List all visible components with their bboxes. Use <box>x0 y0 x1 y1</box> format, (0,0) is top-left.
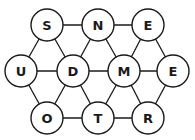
letter-node-e: E <box>132 9 164 41</box>
letter-node-e: E <box>157 55 189 87</box>
node-letter: N <box>93 18 104 33</box>
node-letter: S <box>42 18 51 33</box>
letter-node-t: T <box>82 102 114 134</box>
node-letter: R <box>143 111 153 126</box>
letter-node-o: O <box>31 102 63 134</box>
node-letter: U <box>16 64 27 79</box>
letter-grid-diagram: SNEUDMEOTR <box>0 0 195 140</box>
node-letter: T <box>94 111 103 126</box>
letter-node-n: N <box>82 9 114 41</box>
letter-node-u: U <box>5 55 37 87</box>
node-letter: M <box>118 64 131 79</box>
node-letter: E <box>144 18 153 33</box>
letter-node-s: S <box>31 9 63 41</box>
letter-node-m: M <box>108 55 140 87</box>
node-letter: D <box>68 64 79 79</box>
letter-node-d: D <box>57 55 89 87</box>
letter-node-r: R <box>132 102 164 134</box>
node-letter: E <box>169 64 178 79</box>
node-letter: O <box>41 111 52 126</box>
